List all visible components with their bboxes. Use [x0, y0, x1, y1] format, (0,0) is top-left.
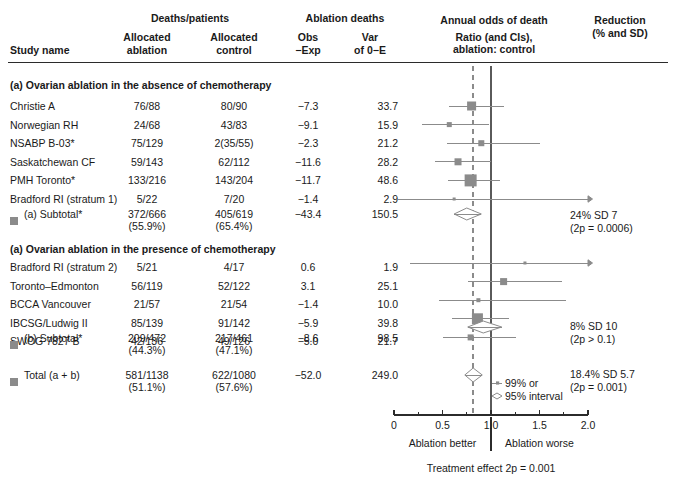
subtotal-marker-b	[10, 334, 24, 352]
subtotal-marker-a	[10, 210, 24, 228]
cell-variance: 25.1	[342, 280, 398, 292]
cell-obs-minus-exp: −1.4	[280, 193, 336, 205]
cell-obs-minus-exp: −11.6	[280, 156, 336, 168]
reduction-value-total: 18.4% SD 5.7	[570, 368, 635, 381]
cell-allocated-control: 91/142	[192, 317, 276, 329]
section-title-a: (a) Ovarian ablation in the absence of c…	[10, 79, 271, 91]
cell-obs-minus-exp: 3.1	[280, 280, 336, 292]
header-col-var-line1: Var	[342, 31, 398, 43]
header-group-deaths-patients: Deaths/patients	[100, 12, 280, 24]
cell-variance: 2.9	[342, 193, 398, 205]
header-col-study-name: Study name	[10, 44, 70, 56]
header-col-obs-line2: −Exp	[280, 44, 336, 56]
total-allocated-control-pct: (57.6%)	[192, 381, 276, 393]
axis-label-ablation-worse: Ablation worse	[485, 437, 595, 449]
cell-variance: 1.9	[342, 261, 398, 273]
study-name: Norwegian RH	[10, 119, 78, 131]
subtotal-label-b: (b) Subtotal*	[24, 332, 82, 344]
subtotal-allocated-ablation-a: 372/666	[105, 208, 189, 220]
cell-variance: 39.8	[342, 317, 398, 329]
forest-plot-canvas	[0, 0, 676, 480]
header-col-obs-line1: Obs	[280, 31, 336, 43]
cell-allocated-ablation: 75/129	[105, 137, 189, 149]
treatment-effect-footnote: Treatment effect 2p = 0.001	[381, 462, 601, 474]
total-variance: 249.0	[342, 369, 398, 381]
study-name: Saskatchewan CF	[10, 156, 95, 168]
subtotal-obs-minus-exp-b: −8.6	[280, 332, 336, 344]
total-label: Total (a + b)	[24, 369, 80, 381]
header-group-ablation-deaths: Ablation deaths	[280, 12, 410, 24]
legend-label-95: 95% interval	[505, 390, 563, 402]
study-name: Toronto–Edmonton	[10, 280, 99, 292]
reduction-value-a: 24% SD 7	[570, 209, 617, 222]
total-allocated-ablation: 581/1138	[105, 369, 189, 381]
total-allocated-control: 622/1080	[192, 369, 276, 381]
subtotal-allocated-ablation-pct-a: (55.9%)	[105, 220, 189, 232]
axis-tick-label: 0.5	[425, 419, 461, 431]
study-name: PMH Toronto*	[10, 174, 75, 186]
cell-obs-minus-exp: −11.7	[280, 174, 336, 186]
section-title-b: (a) Ovarian ablation in the presence of …	[10, 243, 275, 255]
cell-variance: 48.6	[342, 174, 398, 186]
subtotal-obs-minus-exp-a: −43.4	[280, 208, 336, 220]
legend-label-99: 99% or	[505, 377, 538, 389]
subtotal-square-icon	[10, 217, 18, 225]
header-col-var-line2: of 0−E	[342, 44, 398, 56]
study-name: BCCA Vancouver	[10, 298, 91, 310]
reduction-pvalue-a: (2p = 0.0006)	[570, 222, 633, 235]
header-col-allocated-control-line1: Allocated	[192, 31, 276, 43]
cell-variance: 10.0	[342, 298, 398, 310]
cell-allocated-ablation: 21/57	[105, 298, 189, 310]
cell-variance: 15.9	[342, 119, 398, 131]
cell-allocated-ablation: 59/143	[105, 156, 189, 168]
axis-tick-label: 0	[376, 419, 412, 431]
cell-allocated-control: 62/112	[192, 156, 276, 168]
subtotal-allocated-control-a: 405/619	[192, 208, 276, 220]
header-group-annual-odds-sub2: ablation: control	[404, 43, 584, 55]
cell-allocated-ablation: 76/88	[105, 100, 189, 112]
cell-obs-minus-exp: −1.4	[280, 298, 336, 310]
study-name: NSABP B-03*	[10, 137, 75, 149]
cell-allocated-control: 143/204	[192, 174, 276, 186]
study-name: Bradford RI (stratum 1)	[10, 193, 117, 205]
header-group-reduction-line2: (% and SD)	[570, 27, 670, 39]
cell-allocated-control: 80/90	[192, 100, 276, 112]
cell-allocated-control: 7/20	[192, 193, 276, 205]
cell-obs-minus-exp: −7.3	[280, 100, 336, 112]
cell-obs-minus-exp: −9.1	[280, 119, 336, 131]
subtotal-variance-a: 150.5	[342, 208, 398, 220]
total-square-icon	[10, 378, 18, 386]
cell-allocated-control: 52/122	[192, 280, 276, 292]
subtotal-allocated-ablation-b: 209/472	[105, 332, 189, 344]
header-group-reduction-line1: Reduction	[570, 14, 670, 26]
study-name: Christie A	[10, 100, 55, 112]
subtotal-allocated-control-pct-b: (47.1%)	[192, 344, 276, 356]
axis-tick-label: 1.5	[522, 419, 558, 431]
axis-tick-label: 1.0	[473, 419, 509, 431]
axis-label-ablation-better: Ablation better	[388, 437, 498, 449]
cell-allocated-control: 43/83	[192, 119, 276, 131]
header-divider-rule	[8, 62, 668, 63]
total-obs-minus-exp: −52.0	[280, 369, 336, 381]
subtotal-allocated-control-pct-a: (65.4%)	[192, 220, 276, 232]
subtotal-allocated-control-b: 217/461	[192, 332, 276, 344]
cell-allocated-ablation: 5/22	[105, 193, 189, 205]
subtotal-variance-b: 98.5	[342, 332, 398, 344]
cell-variance: 21.2	[342, 137, 398, 149]
header-group-annual-odds-sub1: Ratio (and CIs),	[404, 31, 584, 43]
cell-allocated-control: 2(35/55)	[192, 137, 276, 149]
cell-obs-minus-exp: −2.3	[280, 137, 336, 149]
header-col-allocated-ablation-line1: Allocated	[105, 31, 189, 43]
cell-allocated-ablation: 133/216	[105, 174, 189, 186]
cell-obs-minus-exp: −5.9	[280, 317, 336, 329]
cell-obs-minus-exp: 0.6	[280, 261, 336, 273]
header-col-allocated-control-line2: control	[192, 44, 276, 56]
cell-variance: 28.2	[342, 156, 398, 168]
subtotal-square-icon	[10, 341, 18, 349]
cell-allocated-control: 4/17	[192, 261, 276, 273]
cell-allocated-ablation: 5/21	[105, 261, 189, 273]
cell-allocated-ablation: 24/68	[105, 119, 189, 131]
study-name: Bradford RI (stratum 2)	[10, 261, 117, 273]
header-col-allocated-ablation-line2: ablation	[105, 44, 189, 56]
reduction-pvalue-total: (2p = 0.001)	[570, 381, 627, 394]
